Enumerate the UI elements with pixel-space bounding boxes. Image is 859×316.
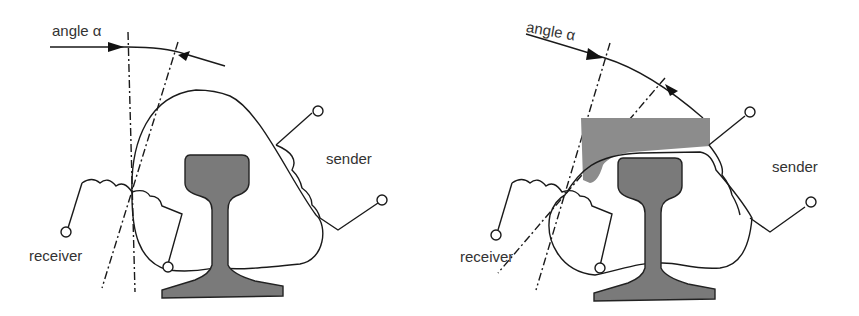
tilted-axis-line xyxy=(102,42,178,288)
sender-coil xyxy=(276,145,320,218)
angle-label: angle α xyxy=(52,22,102,39)
rail-profile xyxy=(594,158,715,301)
receiver-coil xyxy=(82,180,182,265)
receiver-terminal xyxy=(163,262,173,272)
receiver-label: receiver xyxy=(460,248,513,265)
sender-label: sender xyxy=(326,150,372,167)
receiver-terminal xyxy=(491,230,501,240)
sender-terminal xyxy=(745,107,755,117)
receiver-terminal xyxy=(61,227,71,237)
angle-path xyxy=(50,47,225,66)
right-figure xyxy=(491,34,816,301)
rail-profile xyxy=(162,155,283,298)
sender-terminal xyxy=(313,106,323,116)
receiver-terminal xyxy=(595,263,605,273)
receiver-coil xyxy=(512,180,612,267)
sender-terminal xyxy=(377,195,387,205)
sender-terminal xyxy=(806,197,816,207)
arrow-right-icon xyxy=(586,48,603,60)
angle-path xyxy=(526,34,703,118)
receiver-label: receiver xyxy=(29,247,82,264)
sender-label: sender xyxy=(772,158,818,175)
diagram-canvas xyxy=(0,0,859,316)
arrow-right-icon xyxy=(108,42,124,52)
